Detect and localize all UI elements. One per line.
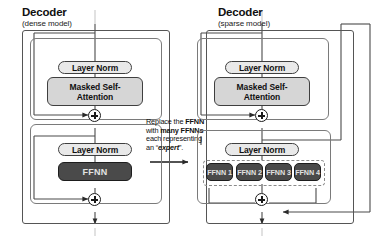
diagram-canvas: Decoder (dense model) Layer Norm Masked … — [0, 0, 385, 239]
dense-title: Decoder — [22, 6, 72, 18]
dense-masked-self-attention[interactable]: Masked Self- Attention — [47, 77, 143, 106]
sparse-layer-norm-2[interactable]: Layer Norm — [225, 143, 299, 156]
attn-line-1: Masked Self- — [237, 82, 288, 92]
dense-layer-norm-2[interactable]: Layer Norm — [58, 143, 132, 156]
dense-add-1 — [88, 109, 101, 122]
dense-panel-heading: Decoder (dense model) — [22, 6, 72, 29]
sparse-subtitle: (sparse model) — [218, 19, 270, 29]
expert-ffnn-3[interactable]: FFNN 3 — [265, 163, 292, 181]
sparse-layer-norm-1[interactable]: Layer Norm — [225, 61, 299, 74]
attn-line-1: Masked Self- — [70, 82, 121, 92]
dense-subtitle: (dense model) — [22, 19, 72, 29]
expert-ffnn-2[interactable]: FFNN 2 — [236, 163, 263, 181]
sparse-title: Decoder — [218, 6, 270, 18]
dense-add-2 — [88, 193, 101, 206]
sparse-panel-heading: Decoder (sparse model) — [218, 6, 270, 29]
expert-ffnn-1[interactable]: FFNN 1 — [206, 163, 233, 181]
expert-ffnn-4[interactable]: FFNN 4 — [294, 163, 321, 181]
dense-layer-norm-1[interactable]: Layer Norm — [58, 61, 132, 74]
sparse-add-1 — [255, 109, 268, 122]
sparse-add-2 — [255, 193, 268, 206]
sparse-masked-self-attention[interactable]: Masked Self- Attention — [214, 77, 310, 106]
dense-ffnn[interactable]: FFNN — [58, 162, 132, 181]
attn-line-2: Attention — [77, 92, 113, 102]
attn-line-2: Attention — [244, 92, 280, 102]
